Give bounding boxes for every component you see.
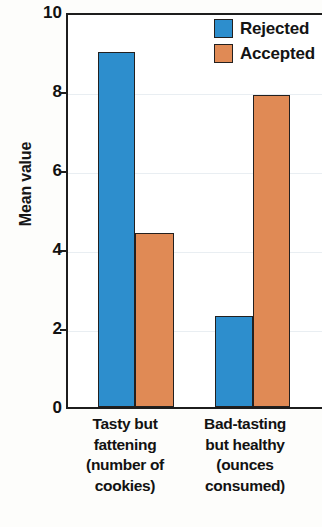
bar-accepted-badtasting-healthy xyxy=(253,95,290,407)
legend-label-accepted: Accepted xyxy=(240,44,315,64)
x-category-line: (number of xyxy=(66,455,184,476)
x-category-line: consumed) xyxy=(184,476,306,497)
y-tick-label-10: 10 xyxy=(28,4,62,21)
chart-legend: Rejected Accepted xyxy=(214,16,322,66)
legend-item-rejected: Rejected xyxy=(214,16,322,41)
y-tick-label-6: 6 xyxy=(28,162,62,179)
legend-label-rejected: Rejected xyxy=(240,19,309,39)
x-category-line: cookies) xyxy=(66,476,184,497)
x-axis-category-labels: Tasty but fattening (number of cookies) … xyxy=(66,414,322,527)
plot-inner xyxy=(68,15,322,407)
y-tick-label-8: 8 xyxy=(28,83,62,100)
bar-chart-figure: Mean value 10 8 6 4 2 0 Rejecte xyxy=(0,0,322,527)
x-category-line: but healthy xyxy=(184,435,306,456)
bar-accepted-tasty-fattening xyxy=(135,233,174,407)
x-category-label-tasty-fattening: Tasty but fattening (number of cookies) xyxy=(66,414,184,496)
legend-swatch-rejected-icon xyxy=(214,19,233,38)
x-category-line: (ounces xyxy=(184,455,306,476)
legend-item-accepted: Accepted xyxy=(214,41,322,66)
legend-swatch-accepted-icon xyxy=(214,44,233,63)
y-axis-tick-labels: 10 8 6 4 2 0 xyxy=(22,0,62,527)
x-category-line: fattening xyxy=(66,435,184,456)
bar-rejected-tasty-fattening xyxy=(98,52,135,407)
bar-rejected-badtasting-healthy xyxy=(215,316,253,407)
y-tick-label-2: 2 xyxy=(28,320,62,337)
plot-area xyxy=(66,13,322,409)
x-category-line: Tasty but xyxy=(66,414,184,435)
y-tick-label-0: 0 xyxy=(28,399,62,416)
x-category-label-badtasting-healthy: Bad-tasting but healthy (ounces consumed… xyxy=(184,414,306,496)
y-tick-label-4: 4 xyxy=(28,241,62,258)
x-category-line: Bad-tasting xyxy=(184,414,306,435)
